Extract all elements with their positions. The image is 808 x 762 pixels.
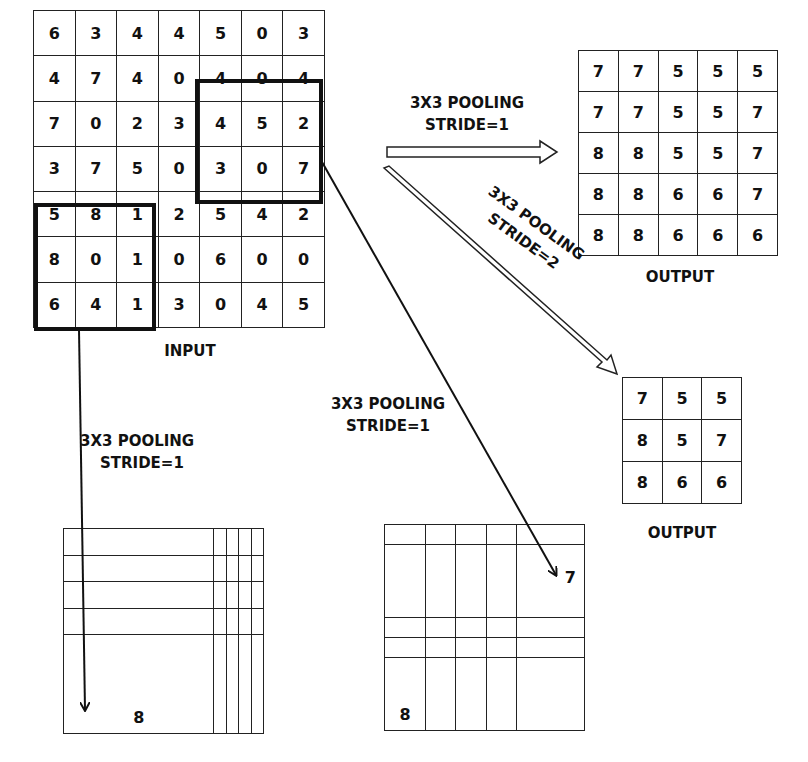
diagram-overlay: [0, 0, 808, 762]
arrow-diagonal-middle: [322, 162, 556, 575]
block-arrow-diagonal: [384, 166, 617, 374]
highlight-window-top-right: [197, 81, 321, 202]
highlight-window-bottom-left: [36, 205, 154, 329]
block-arrow-right: [387, 141, 557, 163]
arrow-down-left: [79, 330, 85, 710]
